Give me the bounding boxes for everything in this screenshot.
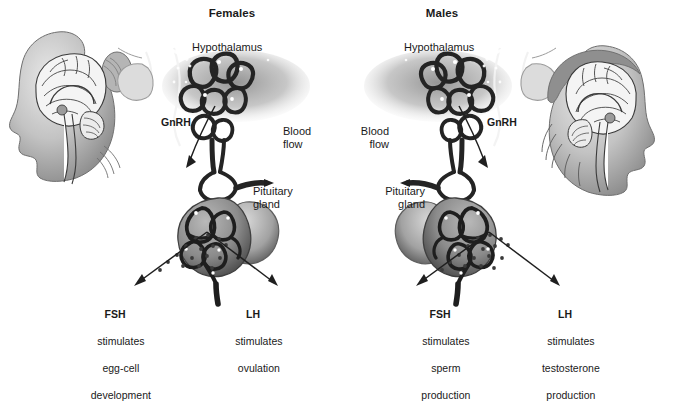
label-blood-flow-female-line1: Blood [283, 125, 311, 138]
label-pituitary-male-line1: Pituitary [355, 185, 425, 198]
label-blood-flow-female-line2: flow [283, 138, 303, 151]
hormone-block-fsh-male: FSH stimulates sperm production [390, 281, 490, 405]
label-blood-flow-male-line2: flow [344, 138, 389, 151]
male-head-illustration [542, 46, 654, 196]
hormone-line-lh-male-3: production [546, 389, 595, 401]
hormone-line-fsh-male-1: stimulates [422, 335, 469, 347]
hormone-block-lh-female: LH stimulates ovulation [203, 281, 303, 389]
hormone-abbr-lh-male: LH [508, 308, 623, 321]
label-blood-flow-male-line1: Blood [344, 125, 389, 138]
panel-title-males: Males [426, 7, 458, 21]
label-pituitary-female-line1: Pituitary [253, 185, 293, 198]
label-gnrh-male: GnRH [487, 116, 517, 128]
hormone-line-lh-female-2: ovulation [238, 362, 280, 374]
hormone-line-fsh-male-3: production [421, 389, 470, 401]
female-head-illustration [10, 32, 132, 184]
hormone-block-lh-male: LH stimulates testosterone production [508, 281, 623, 405]
label-pituitary-female-line2: gland [253, 198, 280, 211]
hormone-line-fsh-male-2: sperm [431, 362, 460, 374]
hormone-line-lh-female-1: stimulates [235, 335, 282, 347]
hormone-abbr-fsh-male: FSH [390, 308, 490, 321]
hormone-line-fsh-female-2: egg-cell [102, 362, 139, 374]
hormone-abbr-lh-female: LH [203, 308, 303, 321]
label-gnrh-female: GnRH [161, 116, 191, 128]
hormone-line-lh-male-2: testosterone [542, 362, 600, 374]
female-hypothalamic-pituitary-axis [106, 41, 310, 304]
label-hypothalamus-female: Hypothalamus [192, 41, 262, 54]
panel-title-females: Females [209, 7, 256, 21]
hormone-abbr-fsh-female: FSH [60, 308, 170, 321]
label-hypothalamus-male: Hypothalamus [404, 41, 474, 54]
hormone-line-fsh-female-1: stimulates [97, 335, 144, 347]
hormone-line-lh-male-1: stimulates [547, 335, 594, 347]
hormone-block-fsh-female: FSH stimulates egg-cell development [60, 281, 170, 405]
label-pituitary-male-line2: gland [355, 198, 425, 211]
hormone-line-fsh-female-3: development [91, 389, 151, 401]
